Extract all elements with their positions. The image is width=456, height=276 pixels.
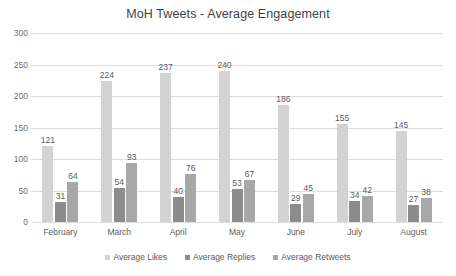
legend-item[interactable]: Average Likes xyxy=(105,252,167,262)
bar-value-label: 93 xyxy=(119,152,145,162)
y-axis-tick-label: 0 xyxy=(2,217,28,227)
bar: 27 xyxy=(408,205,419,222)
x-axis-category-label: February xyxy=(28,227,92,237)
legend-item[interactable]: Average Replies xyxy=(185,252,255,262)
bar-value-label: 237 xyxy=(153,62,179,72)
y-axis-tick-label: 200 xyxy=(2,91,28,101)
y-axis-tick-label: 300 xyxy=(2,28,28,38)
bar: 38 xyxy=(421,198,432,222)
bar-value-label: 64 xyxy=(60,171,86,181)
bar-value-label: 121 xyxy=(35,135,61,145)
bar: 145 xyxy=(396,131,407,222)
bar: 53 xyxy=(232,189,243,222)
x-axis-category-label: July xyxy=(323,227,387,237)
bar: 40 xyxy=(173,197,184,222)
bar: 67 xyxy=(244,180,255,222)
bar: 34 xyxy=(349,201,360,222)
bar-group: 2405367 xyxy=(219,33,255,222)
y-axis-tick-label: 250 xyxy=(2,60,28,70)
legend-swatch-icon xyxy=(185,255,190,260)
bar: 224 xyxy=(101,81,112,222)
bar-group: 1213164 xyxy=(42,33,78,222)
bar: 54 xyxy=(114,188,125,222)
bar-group: 2374076 xyxy=(160,33,196,222)
bar: 64 xyxy=(67,182,78,222)
bar-value-label: 45 xyxy=(295,183,321,193)
y-axis: 050100150200250300 xyxy=(0,33,28,222)
bar-value-label: 42 xyxy=(354,185,380,195)
bar-value-label: 38 xyxy=(413,187,439,197)
bar-value-label: 76 xyxy=(178,163,204,173)
x-axis-category-label: March xyxy=(87,227,151,237)
gridline xyxy=(31,222,443,223)
bar-value-label: 145 xyxy=(388,120,414,130)
y-axis-tick-label: 100 xyxy=(2,154,28,164)
bar: 29 xyxy=(290,204,301,222)
bar: 93 xyxy=(126,163,137,222)
bar-value-label: 155 xyxy=(329,113,355,123)
legend-label: Average Retweets xyxy=(281,252,350,262)
chart-container: MoH Tweets - Average Engagement 05010015… xyxy=(0,0,456,276)
bar-value-label: 186 xyxy=(270,94,296,104)
bar: 45 xyxy=(303,194,314,222)
bar: 76 xyxy=(185,174,196,222)
legend-swatch-icon xyxy=(105,255,110,260)
x-axis-category-label: August xyxy=(382,227,446,237)
x-axis-category-label: June xyxy=(264,227,328,237)
bar: 237 xyxy=(160,73,171,222)
bar: 42 xyxy=(362,196,373,222)
bar-value-label: 224 xyxy=(94,70,120,80)
chart-legend: Average LikesAverage RepliesAverage Retw… xyxy=(0,252,456,262)
bar: 121 xyxy=(42,146,53,222)
x-axis: FebruaryMarchAprilMayJuneJulyAugust xyxy=(31,227,443,243)
legend-label: Average Replies xyxy=(193,252,255,262)
chart-title: MoH Tweets - Average Engagement xyxy=(0,7,456,21)
bar-value-label: 240 xyxy=(212,60,238,70)
bar-group: 1862945 xyxy=(278,33,314,222)
bar-group: 2245493 xyxy=(101,33,137,222)
bar-group: 1452738 xyxy=(396,33,432,222)
legend-swatch-icon xyxy=(273,255,278,260)
x-axis-category-label: May xyxy=(205,227,269,237)
y-axis-tick-label: 150 xyxy=(2,123,28,133)
bar-group: 1553442 xyxy=(337,33,373,222)
bar: 186 xyxy=(278,105,289,222)
y-axis-tick-label: 50 xyxy=(2,186,28,196)
bar: 240 xyxy=(219,71,230,222)
x-axis-category-label: April xyxy=(146,227,210,237)
legend-label: Average Likes xyxy=(113,252,167,262)
legend-item[interactable]: Average Retweets xyxy=(273,252,350,262)
bar: 155 xyxy=(337,124,348,222)
bars-layer: 1213164224549323740762405367186294515534… xyxy=(31,33,443,222)
bar-value-label: 67 xyxy=(237,169,263,179)
bar: 31 xyxy=(55,202,66,222)
